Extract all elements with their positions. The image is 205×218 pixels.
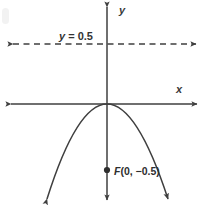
focus-label-coordinates: (0, −0.5) [120,165,159,177]
x-axis-label: x [176,84,182,95]
directrix-label-value: = 0.5 [65,30,93,42]
parabola-figure: y x y = 0.5 F(0, −0.5) [0,0,205,218]
y-axis-label: y [119,5,125,16]
focus-point-label: F(0, −0.5) [114,166,160,177]
focus-point-marker [104,167,110,173]
coordinate-graph [0,0,205,218]
directrix-label: y = 0.5 [59,31,93,42]
